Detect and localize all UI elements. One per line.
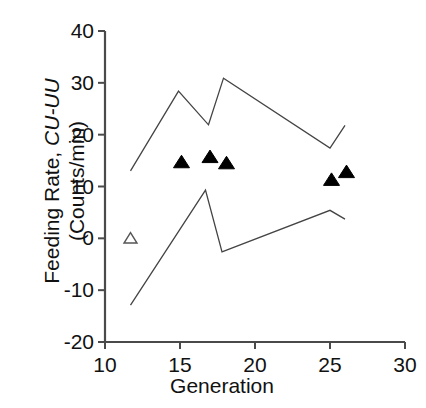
series-feeding-rate-filled-markers xyxy=(174,150,355,185)
x-tick-label-25: 25 xyxy=(318,353,341,376)
x-tick-label-10: 10 xyxy=(93,353,116,376)
y-tick-label-40: 40 xyxy=(71,19,94,42)
y-tick-label--10: -10 xyxy=(64,278,94,301)
marker-filled-triangle xyxy=(202,150,218,163)
plot-area: 403020100-10-201015202530 xyxy=(0,0,426,408)
series-upper-confidence-envelope xyxy=(131,78,346,171)
marker-filled-triangle xyxy=(339,165,355,178)
series-lower-confidence-envelope xyxy=(131,190,346,305)
y-tick-label-0: 0 xyxy=(82,226,94,249)
x-tick-label-15: 15 xyxy=(168,353,191,376)
marker-open-triangle xyxy=(124,233,137,244)
marker-filled-triangle xyxy=(219,156,235,169)
y-tick-label--20: -20 xyxy=(64,330,94,353)
y-tick-label-20: 20 xyxy=(71,123,94,146)
x-tick-label-30: 30 xyxy=(393,353,416,376)
axis-spines xyxy=(105,31,405,342)
marker-filled-triangle xyxy=(174,155,190,168)
x-tick-label-20: 20 xyxy=(243,353,266,376)
series-feeding-rate-open-marker xyxy=(124,233,137,244)
y-tick-label-30: 30 xyxy=(71,71,94,94)
y-tick-label-10: 10 xyxy=(71,175,94,198)
chart-figure: Feeding Rate, CU-UU (Counts/min) Generat… xyxy=(0,0,426,408)
marker-filled-triangle xyxy=(324,173,340,186)
